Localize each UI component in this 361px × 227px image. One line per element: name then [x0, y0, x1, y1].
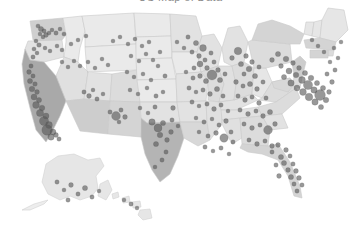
data-point[interactable] — [328, 60, 332, 64]
data-point[interactable] — [206, 134, 210, 138]
data-point[interactable] — [229, 130, 233, 134]
data-point[interactable] — [78, 64, 82, 68]
state-la[interactable] — [180, 122, 210, 146]
data-point[interactable] — [176, 124, 180, 128]
state-pa[interactable] — [248, 40, 292, 68]
data-point[interactable] — [137, 59, 141, 63]
data-point[interactable] — [247, 81, 252, 86]
data-point[interactable] — [82, 185, 87, 190]
data-point[interactable] — [171, 106, 176, 111]
data-point[interactable] — [153, 165, 157, 169]
data-point[interactable] — [66, 65, 70, 69]
data-point[interactable] — [33, 82, 38, 87]
data-point[interactable] — [310, 38, 314, 42]
data-point[interactable] — [190, 50, 194, 54]
data-point[interactable] — [203, 145, 207, 149]
data-point[interactable] — [278, 154, 283, 159]
data-point[interactable] — [31, 94, 37, 100]
data-point[interactable] — [87, 94, 92, 99]
data-point[interactable] — [284, 148, 289, 153]
state-wy[interactable] — [85, 44, 137, 72]
state-id[interactable] — [63, 16, 85, 62]
data-point[interactable] — [191, 76, 195, 80]
data-point[interactable] — [330, 80, 335, 85]
state-az[interactable] — [66, 99, 110, 134]
data-point[interactable] — [33, 102, 40, 109]
data-point[interactable] — [292, 182, 296, 186]
data-point[interactable] — [264, 126, 273, 135]
data-point[interactable] — [133, 37, 137, 41]
data-point[interactable] — [197, 54, 202, 59]
data-point[interactable] — [197, 61, 203, 67]
data-point[interactable] — [242, 122, 246, 126]
data-point[interactable] — [288, 80, 294, 86]
data-point[interactable] — [333, 68, 337, 72]
data-point[interactable] — [29, 86, 35, 92]
data-point[interactable] — [312, 99, 318, 105]
data-point[interactable] — [50, 28, 54, 32]
data-point[interactable] — [118, 35, 122, 39]
data-point[interactable] — [154, 94, 158, 98]
data-point[interactable] — [135, 206, 139, 210]
data-point[interactable] — [101, 92, 105, 96]
data-point[interactable] — [246, 112, 251, 117]
data-point[interactable] — [182, 46, 186, 50]
data-point[interactable] — [270, 144, 275, 149]
data-point[interactable] — [58, 27, 62, 31]
data-point[interactable] — [76, 38, 80, 42]
data-point[interactable] — [123, 115, 128, 120]
data-point[interactable] — [165, 138, 170, 143]
state-or[interactable] — [25, 40, 64, 62]
data-point[interactable] — [84, 34, 88, 38]
data-point[interactable] — [184, 70, 188, 74]
data-point[interactable] — [273, 122, 278, 127]
data-point[interactable] — [161, 90, 165, 94]
data-point[interactable] — [160, 120, 165, 125]
data-point[interactable] — [200, 45, 207, 52]
data-point[interactable] — [219, 146, 223, 150]
aleutian-islands[interactable] — [22, 200, 48, 210]
data-point[interactable] — [250, 95, 254, 99]
data-point[interactable] — [202, 120, 206, 124]
data-point[interactable] — [264, 96, 268, 100]
data-point[interactable] — [197, 104, 201, 108]
data-point[interactable] — [69, 42, 73, 46]
data-point[interactable] — [226, 109, 230, 113]
data-point[interactable] — [82, 90, 86, 94]
data-point[interactable] — [60, 48, 64, 52]
data-point[interactable] — [270, 58, 275, 63]
data-point[interactable] — [57, 137, 61, 141]
data-point[interactable] — [246, 66, 252, 72]
data-point[interactable] — [31, 74, 35, 78]
data-point[interactable] — [316, 44, 320, 48]
data-point[interactable] — [170, 118, 174, 122]
data-point[interactable] — [263, 139, 267, 143]
data-point[interactable] — [214, 131, 219, 136]
data-point[interactable] — [305, 93, 313, 101]
data-point[interactable] — [164, 150, 168, 154]
data-point[interactable] — [297, 66, 302, 71]
data-point[interactable] — [219, 103, 223, 107]
data-point[interactable] — [212, 107, 217, 112]
data-point[interactable] — [220, 134, 228, 142]
data-point[interactable] — [141, 72, 145, 76]
data-point[interactable] — [194, 90, 198, 94]
data-point[interactable] — [261, 80, 265, 84]
data-point[interactable] — [55, 44, 59, 48]
state-ks[interactable] — [137, 79, 177, 102]
data-point[interactable] — [160, 158, 164, 162]
data-point[interactable] — [147, 40, 151, 44]
data-point[interactable] — [241, 84, 245, 88]
data-point[interactable] — [216, 68, 221, 73]
data-point[interactable] — [198, 74, 203, 79]
data-point[interactable] — [60, 60, 64, 64]
data-point[interactable] — [193, 40, 198, 45]
data-point[interactable] — [255, 87, 260, 92]
data-point[interactable] — [187, 86, 191, 90]
data-point[interactable] — [267, 109, 272, 114]
data-point[interactable] — [339, 40, 343, 44]
data-point[interactable] — [125, 70, 129, 74]
data-point[interactable] — [300, 183, 304, 187]
data-point[interactable] — [323, 97, 329, 103]
data-point[interactable] — [31, 55, 35, 59]
